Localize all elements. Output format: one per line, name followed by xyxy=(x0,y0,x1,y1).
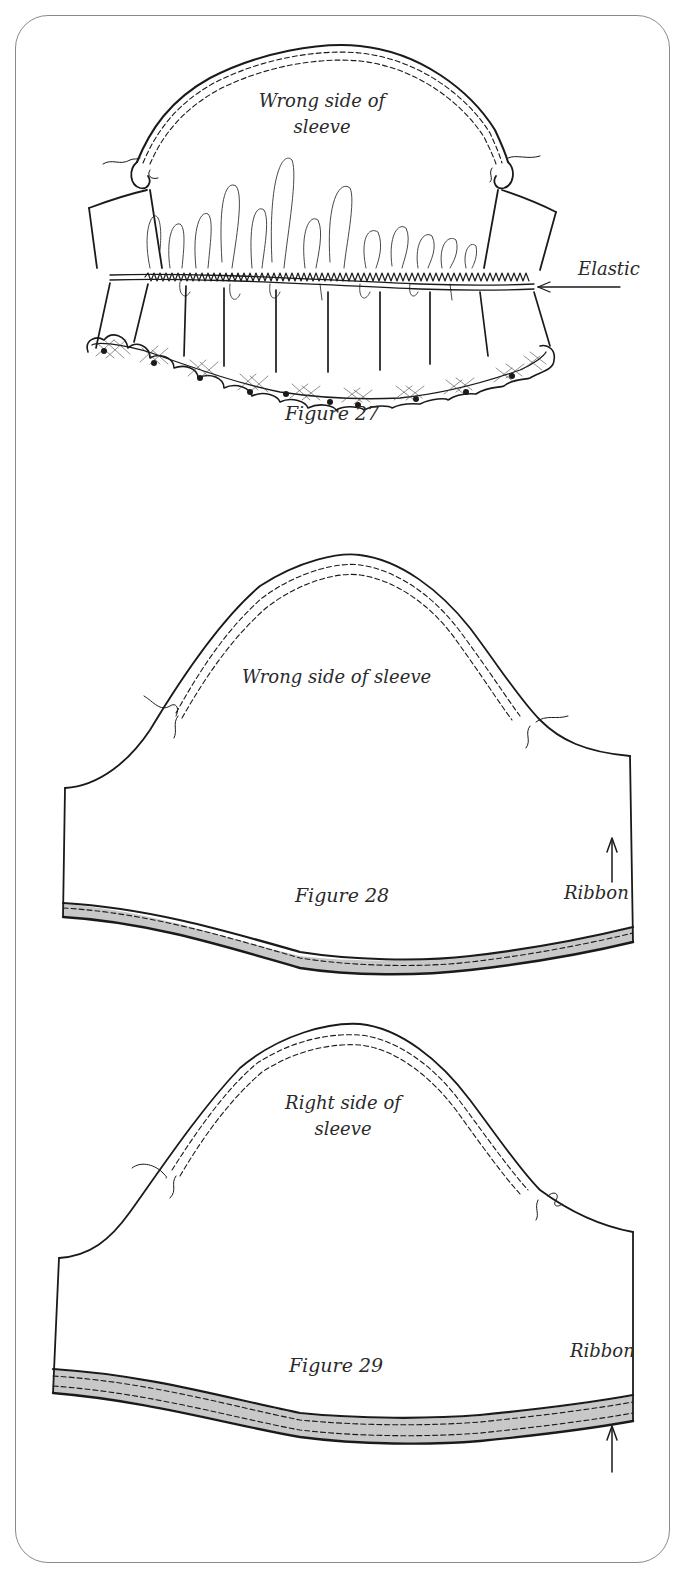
figure-27-caption: Figure 27 xyxy=(262,404,402,423)
ribbon-callout-label: Ribbon xyxy=(564,884,629,902)
figure-28-caption: Figure 28 xyxy=(272,886,412,905)
figure-27-label-line2: sleeve xyxy=(252,118,392,136)
figure-27-label-line1: Wrong side of xyxy=(252,92,392,110)
elastic-callout-label: Elastic xyxy=(578,260,640,278)
figure-28-drawing xyxy=(63,554,633,974)
figure-28-sleeve-label: Wrong side of sleeve xyxy=(242,668,431,686)
lace-hem xyxy=(87,335,554,410)
figure-29-caption: Figure 29 xyxy=(266,1356,406,1375)
figure-29-label-line1: Right side of xyxy=(268,1094,418,1112)
sleeve-outline xyxy=(59,1024,633,1258)
ribbon-callout-label: Ribbon xyxy=(570,1342,635,1360)
figure-29-label-line2: sleeve xyxy=(268,1120,418,1138)
ribbon-band xyxy=(53,1370,633,1443)
